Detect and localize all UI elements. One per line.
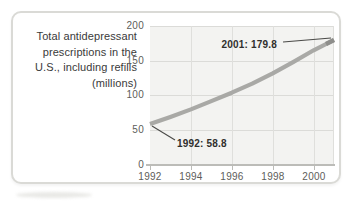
trend-line bbox=[150, 40, 334, 124]
y-tick-label-150: 150 bbox=[104, 55, 144, 67]
x-tick-label-2000: 2000 bbox=[298, 171, 330, 183]
x-tick-label-1992: 1992 bbox=[134, 171, 166, 183]
x-tick-1998 bbox=[273, 166, 274, 170]
x-tick-1994 bbox=[191, 166, 192, 170]
x-tick-1996 bbox=[232, 166, 233, 170]
scan-smudge bbox=[16, 192, 92, 198]
annotation-2001: 2001: 179.8 bbox=[221, 39, 277, 50]
trend-line-tip bbox=[326, 40, 334, 44]
x-tick-label-1994: 1994 bbox=[175, 171, 207, 183]
chart-card: Total antidepressant prescriptions in th… bbox=[11, 11, 341, 184]
y-tick-label-100: 100 bbox=[104, 89, 144, 101]
leader-line-1992 bbox=[152, 126, 175, 140]
y-tick-label-50: 50 bbox=[104, 124, 144, 136]
leader-line-2001 bbox=[283, 38, 331, 42]
y-tick-label-0: 0 bbox=[104, 159, 144, 171]
y-tick-label-200: 200 bbox=[104, 20, 144, 32]
x-tick-2000 bbox=[314, 166, 315, 170]
x-tick-label-1996: 1996 bbox=[216, 171, 248, 183]
annotation-1992: 1992: 58.8 bbox=[177, 138, 227, 149]
x-axis-line bbox=[146, 164, 335, 166]
x-tick-1992 bbox=[150, 166, 151, 170]
x-tick-label-1998: 1998 bbox=[257, 171, 289, 183]
